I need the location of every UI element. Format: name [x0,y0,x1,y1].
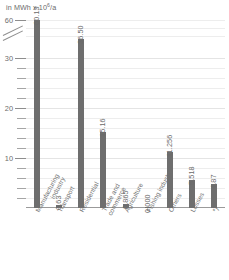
y-axis-label: 60 [5,16,13,25]
y-axis-tick-minor [17,68,26,69]
y-axis-label: 20 [5,104,13,113]
bar-chart: in MWh x 106/a 10203060 60.130.6336.5015… [0,0,229,280]
gridline [26,58,225,59]
gridline [26,68,225,69]
gridline [26,158,225,159]
unit-suffix: /a [50,3,56,12]
gridline [26,128,225,129]
gridline [26,78,225,79]
y-axis-tick-minor [17,128,26,129]
y-axis-tick-minor [17,118,26,119]
bar-value-label: 60.13 [32,6,41,25]
y-axis: 10203060 [0,20,26,209]
bar-value-label: 4.87 [209,174,218,189]
y-axis-tick-minor [17,78,26,79]
bar[interactable] [78,39,84,208]
y-axis-tick-minor [17,148,26,149]
gridline [26,108,225,109]
y-axis-tick-minor [17,168,26,169]
gridline [26,138,225,139]
y-axis-tick-major [15,108,26,109]
bar-value-label: 5.518 [187,166,196,185]
bar-value-label: 11.256 [165,135,174,157]
gridline [26,36,225,37]
bar-value-label: 36.50 [76,25,85,44]
y-axis-tick-minor [17,138,26,139]
y-axis-break-icon [2,26,26,42]
y-axis-tick-minor [17,98,26,99]
bar-value-label: 15.16 [98,118,107,137]
gridline [26,148,225,149]
y-axis-label: 30 [5,54,13,63]
gridline [26,20,225,21]
y-axis-tick-minor [17,88,26,89]
bar[interactable] [34,20,40,208]
gridline [26,28,225,29]
y-axis-tick-major [15,158,26,159]
y-axis-label: 10 [5,154,13,163]
gridline [26,98,225,99]
y-axis-tick-major [15,58,26,59]
gridline [26,88,225,89]
y-axis-tick-minor [17,178,26,179]
y-axis-tick-minor [17,198,26,199]
y-axis-tick-major [15,20,26,21]
gridline [26,118,225,119]
x-axis-category-labels: ManufacturingindustryTransportResidentia… [26,210,225,280]
bar[interactable] [100,132,106,208]
y-axis-tick-minor [17,188,26,189]
